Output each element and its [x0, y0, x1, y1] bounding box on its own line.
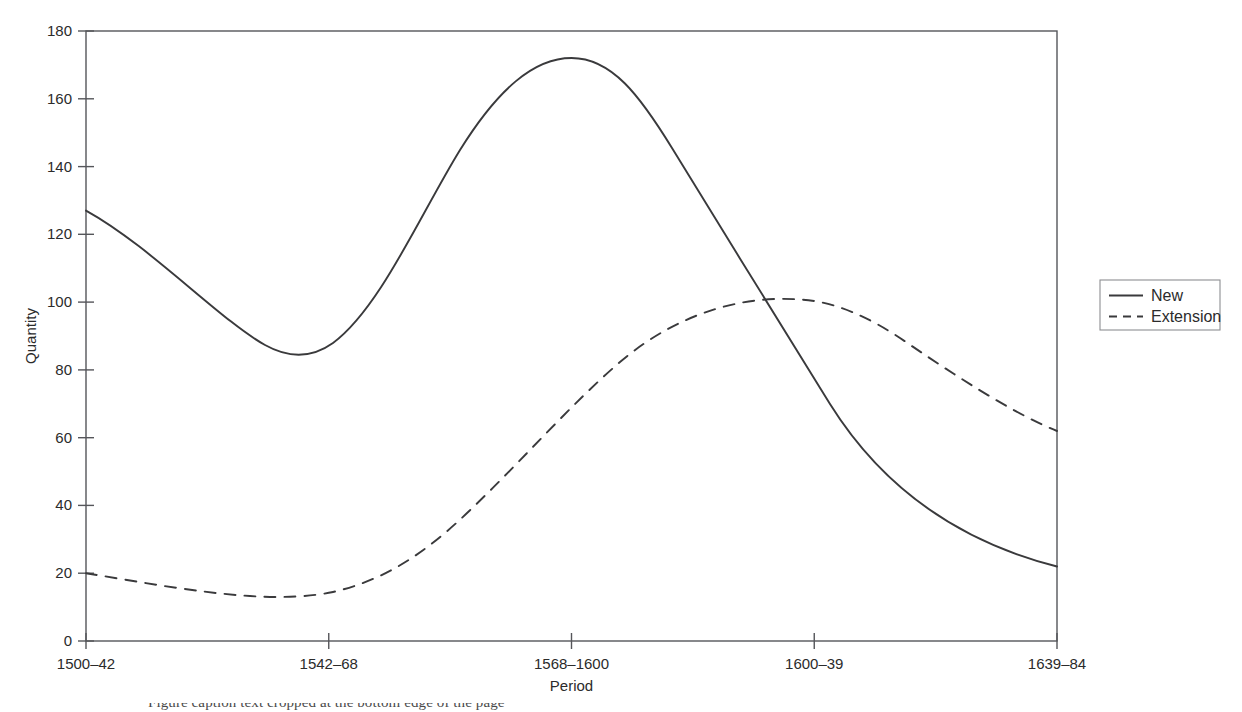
y-tick-label-140: 140	[47, 158, 72, 175]
y-tick-label-0: 0	[64, 632, 72, 649]
y-axis-tick-labels: 0 20 40 60 80 100 120 140 160 180	[47, 22, 72, 649]
line-chart: 0 20 40 60 80 100 120 140 160 180 1500–4…	[0, 0, 1242, 712]
cropped-caption-text: Figure caption text cropped at the botto…	[0, 703, 1242, 711]
y-tick-label-20: 20	[55, 564, 72, 581]
figure-container: 0 20 40 60 80 100 120 140 160 180 1500–4…	[0, 0, 1242, 712]
x-tick-label-1: 1542–68	[300, 655, 358, 672]
plot-area-border	[86, 31, 1057, 641]
y-tick-label-120: 120	[47, 225, 72, 242]
plot-frame	[86, 31, 1057, 641]
legend[interactable]: New Extension	[1100, 280, 1221, 330]
x-tick-label-0: 1500–42	[57, 655, 115, 672]
legend-label-extension: Extension	[1151, 308, 1221, 325]
y-tick-label-180: 180	[47, 22, 72, 39]
y-tick-label-80: 80	[55, 361, 72, 378]
y-tick-label-60: 60	[55, 429, 72, 446]
cropped-caption-strip: Figure caption text cropped at the botto…	[0, 703, 1242, 712]
y-axis-title: Quantity	[22, 308, 39, 364]
legend-label-new: New	[1151, 287, 1183, 304]
x-axis-title: Period	[550, 677, 593, 694]
x-tick-label-3: 1600–39	[785, 655, 843, 672]
x-tick-label-4: 1639–84	[1028, 655, 1086, 672]
x-axis-tick-labels: 1500–42 1542–68 1568–1600 1600–39 1639–8…	[57, 655, 1086, 672]
y-tick-label-100: 100	[47, 293, 72, 310]
y-tick-label-40: 40	[55, 496, 72, 513]
y-tick-label-160: 160	[47, 90, 72, 107]
x-tick-label-2: 1568–1600	[534, 655, 609, 672]
